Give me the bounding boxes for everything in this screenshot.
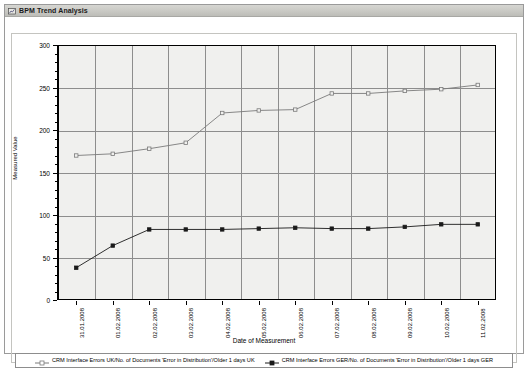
- x-axis-tick-mark: [332, 301, 333, 305]
- plot-region: [58, 45, 496, 300]
- chart-legend: CRM Interface Errors UK/No. of Documents…: [15, 353, 513, 368]
- y-axis-line: [57, 45, 58, 300]
- y-axis-tick-label: 100: [39, 212, 50, 219]
- x-axis-label: Date of Measurement: [5, 337, 523, 344]
- chart-window: BPM Trend Analysis Measured Value 050100…: [4, 4, 524, 354]
- chart-window-icon: [8, 7, 16, 15]
- x-axis-tick-mark: [222, 301, 223, 305]
- x-axis-tick-mark: [149, 301, 150, 305]
- x-axis-tick-label: 07.02.2008: [334, 308, 340, 338]
- chart-area: Measured Value 050100150200250300 31.01.…: [5, 17, 523, 353]
- gridline-vertical: [205, 46, 206, 299]
- x-axis-tick-label: 05.02.2008: [261, 308, 267, 338]
- gridline-vertical: [314, 46, 315, 299]
- gridline-vertical: [387, 46, 388, 299]
- legend-marker-icon: [265, 352, 279, 370]
- x-axis-tick-mark: [441, 301, 442, 305]
- gridline-vertical: [424, 46, 425, 299]
- legend-label: CRM Interface Errors UK/No. of Documents…: [52, 357, 255, 364]
- legend-item[interactable]: CRM Interface Errors GER/No. of Document…: [265, 352, 493, 370]
- x-axis-tick-mark: [295, 301, 296, 305]
- gridline-vertical: [241, 46, 242, 299]
- y-axis-tick-mark: [53, 300, 57, 301]
- legend-marker-icon: [35, 352, 49, 370]
- gridline-vertical: [132, 46, 133, 299]
- x-axis-tick-mark: [478, 301, 479, 305]
- x-axis-tick-label: 03.02.2008: [188, 308, 194, 338]
- x-axis-tick-label: 09.02.2008: [407, 308, 413, 338]
- y-axis-tick-label: 150: [39, 169, 50, 176]
- legend-item[interactable]: CRM Interface Errors UK/No. of Documents…: [35, 352, 255, 370]
- x-axis-tick-mark: [368, 301, 369, 305]
- x-axis-tick-label: 11.02.2008: [480, 308, 486, 338]
- y-axis-tick-label: 300: [39, 42, 50, 49]
- y-axis-tick-label: 0: [46, 297, 50, 304]
- y-axis-tick-label: 200: [39, 127, 50, 134]
- x-axis-tick-label: 01.02.2008: [115, 308, 121, 338]
- gridline-vertical: [95, 46, 96, 299]
- gridline-vertical: [278, 46, 279, 299]
- x-axis-tick-mark: [259, 301, 260, 305]
- x-axis-tick-mark: [113, 301, 114, 305]
- x-axis-tick-label: 02.02.2008: [152, 308, 158, 338]
- y-axis-tick-label: 250: [39, 84, 50, 91]
- y-axis-label: Measured Value: [12, 123, 18, 193]
- y-axis: Measured Value 050100150200250300: [5, 17, 58, 301]
- x-axis-tick-label: 10.02.2008: [444, 308, 450, 338]
- x-axis-tick-mark: [186, 301, 187, 305]
- window-title: BPM Trend Analysis: [19, 6, 88, 15]
- y-axis-tick-label: 50: [43, 254, 50, 261]
- gridline-vertical: [460, 46, 461, 299]
- x-axis-tick-label: 06.02.2008: [298, 308, 304, 338]
- x-axis-tick-label: 31.01.2008: [79, 308, 85, 338]
- x-axis-tick-label: 08.02.2008: [371, 308, 377, 338]
- window-titlebar[interactable]: BPM Trend Analysis: [5, 5, 523, 17]
- x-axis-tick-label: 04.02.2008: [225, 308, 231, 338]
- legend-label: CRM Interface Errors GER/No. of Document…: [282, 357, 493, 364]
- gridline-vertical: [168, 46, 169, 299]
- x-axis-tick-mark: [76, 301, 77, 305]
- x-axis-tick-mark: [405, 301, 406, 305]
- gridline-vertical: [351, 46, 352, 299]
